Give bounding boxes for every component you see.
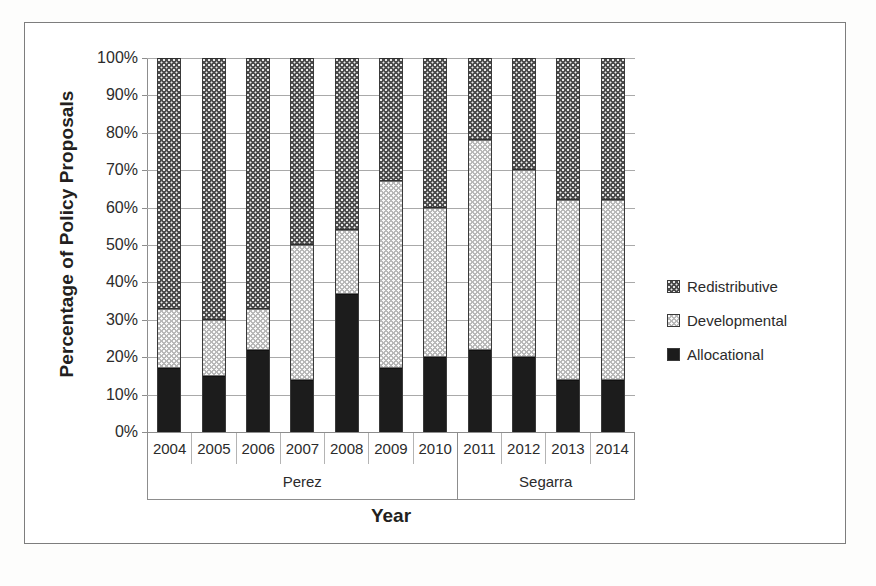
y-tick-label: 50% <box>106 236 138 254</box>
y-tick-label: 90% <box>106 86 138 104</box>
bar-column[interactable] <box>369 58 413 432</box>
stacked-bar[interactable] <box>512 58 536 432</box>
legend-label: Developmental <box>687 312 787 329</box>
legend-swatch-icon <box>667 314 680 327</box>
bar-column[interactable] <box>458 58 502 432</box>
y-tick-label: 80% <box>106 124 138 142</box>
plot-area: 0%10%20%30%40%50%60%70%80%90%100% <box>147 58 635 432</box>
bar-segment-redistributive[interactable] <box>424 58 446 208</box>
bar-series-group <box>147 58 635 432</box>
bar-column[interactable] <box>280 58 324 432</box>
bar-segment-redistributive[interactable] <box>602 58 624 200</box>
bar-segment-developmental[interactable] <box>203 320 225 376</box>
bar-segment-allocational[interactable] <box>602 380 624 432</box>
scanned-page: Percentage of Policy Proposals 0%10%20%3… <box>0 0 876 586</box>
bar-segment-developmental[interactable] <box>557 200 579 380</box>
stacked-bar[interactable] <box>335 58 359 432</box>
bar-segment-redistributive[interactable] <box>557 58 579 200</box>
bar-segment-redistributive[interactable] <box>469 58 491 140</box>
bar-segment-redistributive[interactable] <box>203 58 225 320</box>
bar-segment-redistributive[interactable] <box>291 58 313 245</box>
bar-segment-allocational[interactable] <box>336 294 358 432</box>
bar-column[interactable] <box>191 58 235 432</box>
stacked-bar[interactable] <box>290 58 314 432</box>
bar-column[interactable] <box>502 58 546 432</box>
bar-column[interactable] <box>591 58 635 432</box>
bar-segment-allocational[interactable] <box>380 368 402 432</box>
x-axis-year-label: 2005 <box>192 433 236 464</box>
x-axis-year-label: 2012 <box>502 433 546 464</box>
y-tick-label: 10% <box>106 386 138 404</box>
x-axis-year-label: 2008 <box>325 433 369 464</box>
bar-column[interactable] <box>236 58 280 432</box>
chart-legend: RedistributiveDevelopmentalAllocational <box>667 269 837 371</box>
stacked-bar[interactable] <box>468 58 492 432</box>
legend-label: Redistributive <box>687 278 778 295</box>
y-tick-label: 60% <box>106 199 138 217</box>
stacked-bar[interactable] <box>601 58 625 432</box>
x-axis-year-label: 2007 <box>281 433 325 464</box>
legend-item[interactable]: Developmental <box>667 303 837 337</box>
chart-frame: Percentage of Policy Proposals 0%10%20%3… <box>24 22 846 544</box>
bar-segment-allocational[interactable] <box>424 357 446 432</box>
x-axis-group-label: Segarra <box>458 464 635 500</box>
bar-segment-allocational[interactable] <box>203 376 225 432</box>
x-axis-group-labels: PerezSegarra <box>147 464 635 500</box>
bar-segment-developmental[interactable] <box>336 230 358 294</box>
stacked-bar[interactable] <box>157 58 181 432</box>
bar-segment-allocational[interactable] <box>469 350 491 432</box>
bar-segment-developmental[interactable] <box>469 140 491 349</box>
bar-segment-allocational[interactable] <box>158 368 180 432</box>
legend-item[interactable]: Allocational <box>667 337 837 371</box>
bar-segment-developmental[interactable] <box>247 309 269 350</box>
legend-swatch-icon <box>667 348 680 361</box>
y-tick-label: 70% <box>106 161 138 179</box>
x-axis-year-label: 2011 <box>458 433 502 464</box>
bar-segment-redistributive[interactable] <box>158 58 180 309</box>
stacked-bar[interactable] <box>379 58 403 432</box>
x-axis-year-label: 2014 <box>591 433 635 464</box>
y-tick-label: 30% <box>106 311 138 329</box>
bar-column[interactable] <box>147 58 191 432</box>
bar-segment-developmental[interactable] <box>424 208 446 358</box>
legend-swatch-icon <box>667 280 680 293</box>
bar-segment-developmental[interactable] <box>291 245 313 380</box>
bar-segment-allocational[interactable] <box>247 350 269 432</box>
x-axis-year-label: 2013 <box>546 433 590 464</box>
bar-segment-developmental[interactable] <box>158 309 180 369</box>
x-axis-title: Year <box>147 505 635 527</box>
bar-segment-redistributive[interactable] <box>336 58 358 230</box>
bar-segment-redistributive[interactable] <box>513 58 535 170</box>
bar-segment-developmental[interactable] <box>513 170 535 357</box>
bar-segment-developmental[interactable] <box>380 181 402 368</box>
stacked-bar[interactable] <box>556 58 580 432</box>
x-axis-group-label: Perez <box>147 464 458 500</box>
y-tick-label: 100% <box>97 49 138 67</box>
x-axis-year-label: 2009 <box>369 433 413 464</box>
stacked-bar[interactable] <box>246 58 270 432</box>
legend-label: Allocational <box>687 346 764 363</box>
x-axis-year-label: 2010 <box>414 433 458 464</box>
stacked-bar[interactable] <box>423 58 447 432</box>
bar-segment-allocational[interactable] <box>513 357 535 432</box>
bar-column[interactable] <box>546 58 590 432</box>
bar-column[interactable] <box>413 58 457 432</box>
x-axis-year-labels: 2004200520062007200820092010201120122013… <box>147 432 635 464</box>
x-axis-year-label: 2006 <box>237 433 281 464</box>
bar-segment-allocational[interactable] <box>557 380 579 432</box>
bar-segment-redistributive[interactable] <box>380 58 402 181</box>
x-axis-year-label: 2004 <box>147 433 192 464</box>
stacked-bar[interactable] <box>202 58 226 432</box>
y-tick-label: 20% <box>106 348 138 366</box>
bar-segment-redistributive[interactable] <box>247 58 269 309</box>
bar-segment-allocational[interactable] <box>291 380 313 432</box>
y-axis-title: Percentage of Policy Proposals <box>56 74 78 394</box>
y-tick-label: 0% <box>115 423 138 441</box>
legend-item[interactable]: Redistributive <box>667 269 837 303</box>
bar-segment-developmental[interactable] <box>602 200 624 380</box>
bar-column[interactable] <box>324 58 368 432</box>
y-tick-label: 40% <box>106 273 138 291</box>
